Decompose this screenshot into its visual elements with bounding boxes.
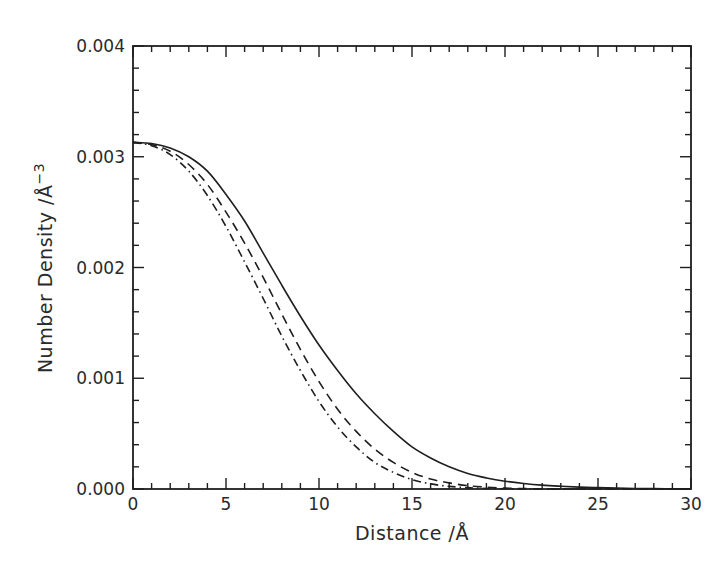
ticks <box>133 46 691 489</box>
x-tick-label: 15 <box>401 494 423 514</box>
x-tick-label: 10 <box>308 494 330 514</box>
x-tick-label: 5 <box>221 494 232 514</box>
x-axis-label: Distance /Å <box>355 522 469 544</box>
plot-frame <box>133 46 691 489</box>
x-tick-label: 20 <box>494 494 516 514</box>
y-axis-label-text: Number Density /Å <box>34 185 56 374</box>
y-tick-label: 0.004 <box>76 36 125 56</box>
chart: 051015202530 0.0000.0010.0020.0030.004 D… <box>0 0 725 579</box>
x-tick-label: 0 <box>128 494 139 514</box>
y-tick-label: 0.003 <box>76 147 125 167</box>
series-solid <box>133 142 691 489</box>
x-tick-label: 30 <box>680 494 702 514</box>
data-series <box>133 142 691 489</box>
series-dash-dot <box>133 142 691 489</box>
y-tick-label: 0.001 <box>76 368 125 388</box>
series-dashed <box>133 142 691 489</box>
x-tick-label: 25 <box>587 494 609 514</box>
y-axis-label: Number Density /Å−3 <box>31 163 56 373</box>
y-axis-label-exponent: −3 <box>31 163 47 185</box>
plot-border <box>133 46 691 489</box>
y-tick-label: 0.002 <box>76 258 125 278</box>
y-tick-labels: 0.0000.0010.0020.0030.004 <box>76 36 125 499</box>
y-tick-label: 0.000 <box>76 479 125 499</box>
x-tick-labels: 051015202530 <box>128 494 702 514</box>
